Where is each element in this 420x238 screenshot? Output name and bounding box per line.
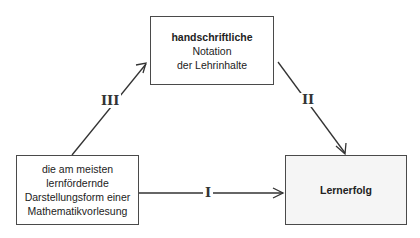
box-top-line3: der Lehrinhalte bbox=[177, 58, 247, 72]
box-left-line3: Darstellungsform einer bbox=[25, 190, 131, 204]
box-top-line2: Notation bbox=[192, 44, 231, 58]
arrow-label-iii: III bbox=[99, 94, 121, 108]
box-top-line1: handschriftliche bbox=[171, 30, 252, 44]
arrow-label-i: I bbox=[203, 186, 213, 200]
arrow-iii bbox=[72, 63, 146, 155]
box-left-line4: Mathematikvorlesung bbox=[28, 204, 128, 218]
box-presentation-form: die am meisten lernfördernde Darstellung… bbox=[16, 155, 139, 225]
box-left-line2: lernfördernde bbox=[46, 176, 108, 190]
arrow-ii bbox=[278, 62, 346, 154]
box-right-line1: Lernerfolg bbox=[320, 183, 372, 197]
box-left-line1: die am meisten bbox=[42, 162, 113, 176]
box-learning-success: Lernerfolg bbox=[285, 155, 407, 225]
arrow-label-ii: II bbox=[300, 93, 316, 107]
box-handwritten-notation: handschriftliche Notation der Lehrinhalt… bbox=[150, 16, 274, 85]
